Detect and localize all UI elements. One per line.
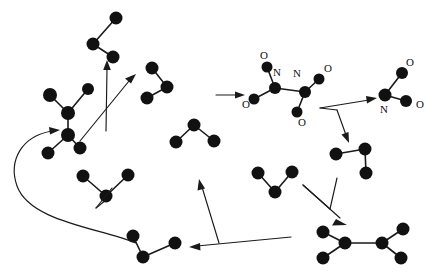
atom-node [376,237,389,250]
atom-node [269,186,282,199]
atom-label-O: O [260,49,268,61]
atom-label-O: O [298,116,306,128]
atom-node [74,142,87,155]
atom-label-O: O [324,62,332,74]
atom-node [299,86,311,98]
atom-node [379,89,392,102]
atom-node [286,166,299,179]
atom-node [262,62,273,73]
atom-node [82,83,94,95]
atom-node [249,94,260,105]
atom-node [43,88,57,102]
atom-node [188,119,201,132]
atom-node [396,67,408,79]
atom-node [161,81,174,94]
atom-node [314,74,325,85]
atom-label-O: O [406,56,414,68]
atom-label-O: O [242,98,250,110]
reaction-scheme-svg: O N N O O O O N O [0,0,433,272]
atom-node [359,143,372,156]
atom-node [169,237,182,250]
figure-canvas: O N N O O O O N O [0,0,433,272]
atom-node [87,38,100,51]
atom-node [61,128,75,142]
atom-node [400,95,412,107]
atom-node [208,135,221,148]
atom-node [122,169,135,182]
atom-node [269,82,281,94]
atom-node [317,226,330,239]
atom-node [397,223,410,236]
atom-node [42,147,55,160]
atom-node [137,251,150,264]
atom-node [330,148,343,161]
atom-node [339,237,352,250]
atom-node [61,106,75,120]
atom-node [317,252,330,265]
atom-label-N: N [273,66,281,78]
atom-node [395,252,408,265]
atom-node [107,51,120,64]
atom-node [77,170,90,183]
atom-node [252,167,265,180]
atom-node [110,12,123,25]
atom-node [141,92,154,105]
atom-node [170,136,183,149]
atom-node [360,167,373,180]
atom-label-N: N [293,67,301,79]
atom-label-O: O [416,98,424,110]
atom-label-N: N [380,103,388,115]
atom-node [146,62,159,75]
